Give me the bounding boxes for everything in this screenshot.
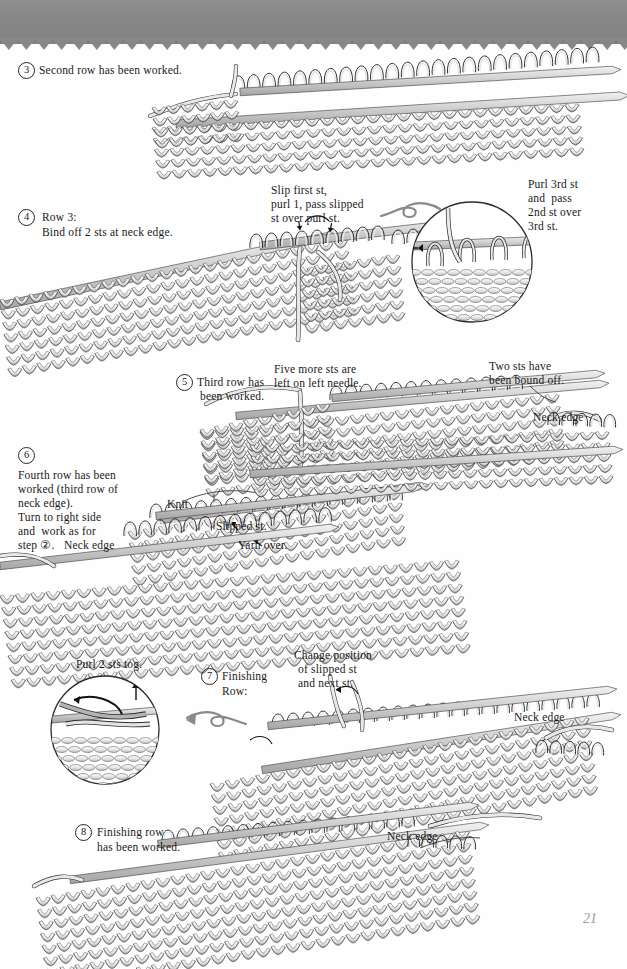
annotation-purl-3rd-line-3: 2nd st over bbox=[528, 205, 581, 220]
annotation-yarn-over: Yarn over. bbox=[238, 538, 287, 553]
annotation-neck-edge-3: Neck edge bbox=[387, 829, 438, 844]
annotation-purl-3rd-line-4: 3rd st. bbox=[528, 219, 558, 234]
annotation-neck-edge-1: Neck edge bbox=[533, 410, 584, 425]
step-5-marker: 5 bbox=[176, 374, 193, 391]
page-number: 21 bbox=[583, 911, 597, 927]
step-6-line-1: Fourth row has been bbox=[18, 468, 116, 483]
step-6-line-6: step ②. Neck edge bbox=[18, 538, 115, 553]
step-4-line-2: Bind off 2 sts at neck edge. bbox=[42, 225, 173, 240]
step-8-line-2: has been worked. bbox=[97, 840, 180, 855]
step-6-line-3: neck edge). bbox=[18, 496, 73, 511]
step-3-text: Second row has been worked. bbox=[39, 63, 182, 78]
annotation-change-position-line-2: of slipped st bbox=[298, 662, 357, 677]
annotation-five-more-line-2: left on left needle. bbox=[274, 376, 362, 391]
step-5-line-2: been worked. bbox=[200, 389, 264, 404]
annotation-purl-3rd-line-1: Purl 3rd st bbox=[528, 177, 578, 192]
step-6-line-4: Turn to right side bbox=[18, 510, 101, 525]
annotation-two-bound-line-2: been bound off. bbox=[489, 373, 564, 388]
step-3-marker: 3 bbox=[18, 62, 35, 79]
sawtooth-edge-icon bbox=[0, 38, 627, 51]
annotation-knit: Knit bbox=[167, 497, 188, 512]
annotation-five-more-line-1: Five more sts are bbox=[274, 362, 356, 377]
annotation-slip-first-line-2: purl 1, pass slipped bbox=[271, 197, 364, 212]
step-7-line-2: Row: bbox=[222, 684, 248, 699]
annotation-neck-edge-2: Neck edge bbox=[514, 710, 565, 725]
annotation-change-position-line-1: Change position bbox=[294, 648, 372, 663]
annotation-slip-first-line-1: Slip first st, bbox=[271, 183, 327, 198]
annotation-purl-2-tog: Purl 2 sts tog. bbox=[76, 657, 142, 672]
knitting-instruction-page: 3 Second row has been worked. 4 Row 3: B… bbox=[0, 0, 627, 969]
step-4-marker: 4 bbox=[18, 209, 35, 226]
annotation-slip-first-line-3: st over purl st. bbox=[271, 211, 340, 226]
step-7-line-1: Finishing bbox=[222, 669, 267, 684]
step-6-marker: 6 bbox=[18, 447, 35, 464]
annotation-slipped-st: Slipped st. bbox=[216, 519, 267, 534]
step-5-line-1: Third row has bbox=[197, 375, 264, 390]
step-7-marker: 7 bbox=[201, 668, 218, 685]
annotation-change-position-line-3: and next st. bbox=[298, 676, 353, 691]
step-4-line-1: Row 3: bbox=[42, 210, 77, 225]
step-6-line-2: worked (third row of bbox=[18, 482, 118, 497]
step-8-line-1: Finishing row bbox=[97, 825, 164, 840]
step-8-marker: 8 bbox=[75, 824, 92, 841]
annotation-two-bound-line-1: Two sts have bbox=[489, 359, 551, 374]
annotation-purl-3rd-line-2: and pass bbox=[528, 191, 572, 206]
step-6-line-5: and work as for bbox=[18, 524, 96, 539]
